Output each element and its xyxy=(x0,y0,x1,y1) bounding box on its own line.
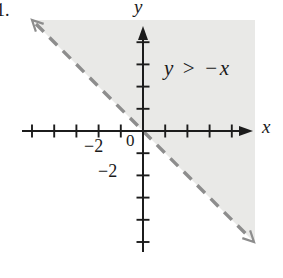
origin-label: 0 xyxy=(126,132,135,149)
graph-canvas xyxy=(0,0,283,278)
x-axis-label: x xyxy=(262,117,270,136)
x-axis-tick-label-neg2: −2 xyxy=(84,137,103,155)
y-axis-label: y xyxy=(134,0,142,16)
inequality-label: y > −x xyxy=(164,58,230,79)
problem-number: 1. xyxy=(0,1,10,19)
y-axis-tick-label-neg2: −2 xyxy=(98,162,117,180)
inequality-graph-figure: 1. y x 0 −2 −2 y > −x xyxy=(0,0,283,278)
